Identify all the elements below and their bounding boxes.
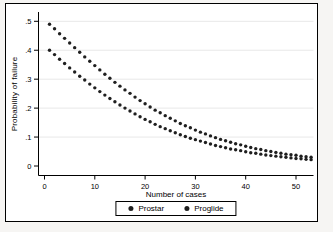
- data-point-prostar: [53, 27, 56, 30]
- x-tick-label: 40: [242, 182, 250, 191]
- data-point-proglide: [58, 58, 61, 61]
- y-tick-label: .2: [25, 104, 31, 113]
- data-point-prostar: [103, 73, 106, 76]
- data-point-proglide: [169, 129, 172, 132]
- data-point-prostar: [164, 114, 167, 117]
- y-tick-label: .4: [25, 46, 31, 55]
- data-point-prostar: [194, 128, 197, 131]
- data-point-prostar: [244, 145, 247, 148]
- data-point-proglide: [214, 144, 217, 147]
- data-point-prostar: [189, 126, 192, 129]
- data-point-prostar: [78, 51, 81, 54]
- legend-label-proglide: Proglide: [194, 204, 223, 213]
- data-point-prostar: [209, 134, 212, 137]
- data-point-proglide: [179, 133, 182, 136]
- legend: Prostar Proglide: [115, 201, 236, 216]
- data-point-prostar: [259, 148, 262, 151]
- data-point-prostar: [214, 136, 217, 139]
- data-point-proglide: [239, 149, 242, 152]
- data-point-prostar: [88, 60, 91, 63]
- data-point-proglide: [209, 142, 212, 145]
- data-point-prostar: [113, 81, 116, 84]
- data-point-proglide: [138, 115, 141, 118]
- x-axis-title: Number of cases: [146, 190, 206, 199]
- data-point-proglide: [53, 53, 56, 56]
- data-point-prostar: [73, 46, 76, 49]
- data-point-proglide: [153, 123, 156, 126]
- data-point-proglide: [274, 154, 277, 157]
- data-point-prostar: [133, 95, 136, 98]
- data-point-prostar: [174, 119, 177, 122]
- data-point-prostar: [158, 111, 161, 114]
- y-tick-label: .5: [25, 17, 31, 26]
- data-point-prostar: [108, 77, 111, 80]
- data-point-proglide: [204, 141, 207, 144]
- proglide-marker-icon: [184, 206, 189, 211]
- data-point-proglide: [164, 127, 167, 130]
- data-point-proglide: [63, 62, 66, 65]
- data-point-proglide: [254, 152, 257, 155]
- data-point-prostar: [179, 122, 182, 125]
- data-point-prostar: [169, 117, 172, 120]
- data-point-proglide: [118, 103, 121, 106]
- data-point-proglide: [299, 157, 302, 160]
- data-point-prostar: [153, 108, 156, 111]
- data-point-proglide: [93, 86, 96, 89]
- data-point-proglide: [113, 100, 116, 103]
- data-point-prostar: [123, 88, 126, 91]
- data-point-prostar: [143, 102, 146, 105]
- prostar-marker-icon: [128, 206, 133, 211]
- data-point-prostar: [219, 138, 222, 141]
- data-point-proglide: [123, 106, 126, 109]
- data-point-proglide: [143, 118, 146, 121]
- data-point-proglide: [88, 82, 91, 85]
- data-point-proglide: [234, 148, 237, 151]
- data-point-proglide: [174, 131, 177, 134]
- y-tick-label: 0: [27, 162, 31, 171]
- data-point-proglide: [83, 78, 86, 81]
- data-point-prostar: [58, 32, 61, 35]
- data-point-prostar: [68, 41, 71, 44]
- data-point-proglide: [148, 120, 151, 123]
- data-point-prostar: [98, 68, 101, 71]
- x-tick-label: 0: [42, 182, 46, 191]
- data-point-prostar: [229, 141, 232, 144]
- data-point-prostar: [269, 150, 272, 153]
- data-point-proglide: [78, 75, 81, 78]
- legend-label-prostar: Prostar: [138, 204, 164, 213]
- y-tick-label: .3: [25, 75, 31, 84]
- graph-canvas: 0.1.2.3.4.501020304050 Probability of fa…: [0, 0, 333, 232]
- data-point-prostar: [284, 152, 287, 155]
- data-point-prostar: [294, 154, 297, 157]
- x-tick-label: 10: [91, 182, 99, 191]
- data-point-proglide: [244, 150, 247, 153]
- data-point-proglide: [304, 158, 307, 161]
- data-point-proglide: [229, 147, 232, 150]
- data-point-proglide: [284, 156, 287, 159]
- data-point-proglide: [48, 49, 51, 52]
- data-point-proglide: [294, 157, 297, 160]
- data-point-proglide: [259, 152, 262, 155]
- y-axis-title: Probability of failure: [10, 57, 19, 132]
- data-point-prostar: [184, 124, 187, 127]
- legend-item-proglide: Proglide: [184, 204, 223, 213]
- data-point-proglide: [199, 139, 202, 142]
- y-tick-label: .1: [25, 133, 31, 142]
- data-point-prostar: [148, 105, 151, 108]
- data-point-proglide: [264, 153, 267, 156]
- data-point-proglide: [279, 155, 282, 158]
- data-point-prostar: [63, 37, 66, 40]
- data-point-proglide: [184, 135, 187, 138]
- data-point-prostar: [128, 92, 131, 95]
- data-point-proglide: [98, 90, 101, 93]
- data-point-proglide: [73, 70, 76, 73]
- data-point-prostar: [234, 142, 237, 145]
- data-point-proglide: [224, 146, 227, 149]
- data-point-prostar: [254, 147, 257, 150]
- data-point-proglide: [158, 125, 161, 128]
- data-point-proglide: [194, 138, 197, 141]
- data-point-prostar: [118, 84, 121, 87]
- data-point-prostar: [239, 143, 242, 146]
- data-point-proglide: [103, 93, 106, 96]
- data-point-proglide: [269, 154, 272, 157]
